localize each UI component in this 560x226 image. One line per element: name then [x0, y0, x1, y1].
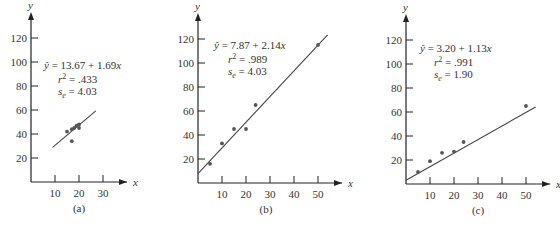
y-tick-label: 20 [391, 154, 403, 166]
x-tick-label: 30 [473, 189, 485, 201]
y-tick-label: 80 [16, 80, 28, 92]
regression-line [406, 107, 536, 180]
regression-equation: ŷ = 3.20 + 1.13x [419, 42, 492, 54]
y-tick-label: 100 [11, 56, 28, 68]
x-axis-label: x [347, 177, 353, 189]
x-axis-arrow-icon [542, 181, 550, 187]
x-axis-arrow-icon [334, 180, 342, 186]
data-point [232, 127, 236, 131]
x-tick-label: 10 [217, 188, 229, 200]
panel-caption: (c) [472, 204, 485, 217]
y-tick-label: 80 [183, 81, 195, 93]
x-tick-label: 20 [241, 188, 253, 200]
data-point [244, 127, 248, 131]
x-axis-label: x [555, 178, 560, 190]
y-axis-arrow-icon [403, 14, 409, 22]
x-tick-label: 20 [74, 187, 86, 199]
y-tick-label: 80 [391, 82, 403, 94]
y-tick-label: 60 [391, 106, 403, 118]
y-tick-label: 100 [178, 57, 195, 69]
y-tick-label: 20 [183, 153, 195, 165]
x-tick-label: 40 [289, 188, 301, 200]
data-point [77, 126, 81, 130]
scatter-panel-a: xy10203020406080100120ŷ = 13.67 + 1.69xr… [11, 0, 139, 215]
y-axis-arrow-icon [28, 12, 34, 20]
data-point [65, 130, 69, 134]
x-axis-arrow-icon [119, 179, 127, 185]
x-tick-label: 30 [98, 187, 110, 199]
data-point [220, 142, 224, 146]
y-axis-arrow-icon [195, 13, 201, 21]
data-point [208, 162, 212, 166]
scatter-panel-c: xy102030405020406080100120ŷ = 3.20 + 1.1… [386, 1, 560, 217]
data-point [428, 159, 432, 163]
y-tick-label: 120 [178, 33, 195, 45]
x-tick-label: 50 [313, 188, 325, 200]
standard-error-label: se = 1.90 [434, 68, 473, 83]
r-squared-label: r2 = .991 [434, 55, 473, 68]
y-tick-label: 60 [183, 105, 195, 117]
y-tick-label: 20 [16, 152, 28, 164]
figure-three-scatterplots: xy10203020406080100120ŷ = 13.67 + 1.69xr… [0, 0, 560, 226]
standard-error-label: se = 4.03 [228, 65, 267, 80]
x-tick-label: 20 [449, 189, 461, 201]
standard-error-label: se = 4.03 [58, 85, 97, 100]
y-tick-label: 40 [16, 128, 28, 140]
x-tick-label: 50 [521, 189, 533, 201]
x-axis-label: x [132, 176, 138, 188]
y-axis-label: y [402, 1, 408, 13]
y-tick-label: 60 [16, 104, 28, 116]
y-axis-label: y [27, 0, 33, 11]
y-axis-label: y [194, 0, 200, 12]
data-point [524, 104, 528, 108]
data-point [440, 151, 444, 155]
x-tick-label: 40 [497, 189, 509, 201]
y-tick-label: 40 [183, 129, 195, 141]
regression-equation: ŷ = 13.67 + 1.69x [43, 59, 121, 71]
data-point [452, 150, 456, 154]
r-squared-label: r2 = .989 [228, 52, 268, 65]
data-point [462, 140, 466, 144]
y-tick-label: 120 [386, 34, 403, 46]
x-tick-label: 10 [50, 187, 62, 199]
data-point [316, 43, 320, 47]
regression-equation: ŷ = 7.87 + 2.14x [213, 39, 286, 51]
r-squared-label: r2 = .433 [58, 72, 98, 85]
y-tick-label: 100 [386, 58, 403, 70]
data-point [77, 123, 81, 127]
y-tick-label: 120 [11, 32, 28, 44]
x-tick-label: 30 [265, 188, 277, 200]
data-point [254, 103, 258, 107]
scatter-panel-b: xy102030405020406080100120ŷ = 7.87 + 2.1… [178, 0, 354, 216]
panel-caption: (a) [73, 202, 86, 215]
data-point [70, 139, 74, 143]
panel-caption: (b) [260, 203, 273, 216]
x-tick-label: 10 [425, 189, 437, 201]
y-tick-label: 40 [391, 130, 403, 142]
data-point [416, 170, 420, 174]
